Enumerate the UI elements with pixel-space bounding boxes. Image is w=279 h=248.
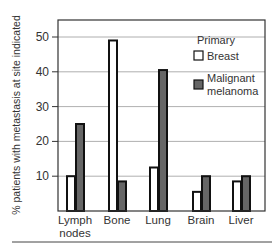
x-tick-label: Lymph [58,214,92,226]
legend-swatch-melanoma [194,80,203,89]
bar-breast-lymph-nodes [67,176,75,211]
bar-breast-bone [109,40,117,211]
bar-chart: 1020304050 LymphnodesBoneLungBrainLiver … [0,0,279,248]
bar-malignant-melanoma-bone [118,181,126,211]
x-tick-label: Liver [229,214,254,226]
bar-malignant-melanoma-brain [202,176,210,211]
x-tick-label: Bone [104,214,131,226]
bar-breast-brain [193,192,201,211]
y-tick-label: 40 [36,65,50,79]
bar-breast-liver [233,181,241,211]
legend: Primary Breast Malignant melanoma [194,34,259,97]
y-axis-ticks: 1020304050 [36,30,58,183]
legend-item-breast: Breast [194,50,239,62]
legend-item-melanoma: Malignant melanoma [194,72,259,97]
legend-label-breast: Breast [207,50,239,62]
y-tick-label: 20 [36,134,50,148]
x-tick-label: Brain [188,214,215,226]
x-tick-label: nodes [59,227,91,239]
bar-malignant-melanoma-liver [242,176,250,211]
legend-swatch-breast [194,51,203,60]
bar-breast-lung [150,168,158,212]
legend-title: Primary [197,34,235,46]
y-tick-label: 50 [36,30,50,44]
x-tick-label: Lung [145,214,171,226]
x-axis-labels: LymphnodesBoneLungBrainLiver [58,214,254,239]
legend-label-melanoma-line1: Malignant [207,72,255,84]
y-tick-label: 30 [36,100,50,114]
legend-label-melanoma-line2: melanoma [207,85,259,97]
bars [67,40,250,211]
y-axis-label: % patients with metastasis at site indic… [10,15,22,215]
bar-malignant-melanoma-lymph-nodes [76,124,84,211]
y-tick-label: 10 [36,169,50,183]
bar-malignant-melanoma-lung [159,70,167,211]
